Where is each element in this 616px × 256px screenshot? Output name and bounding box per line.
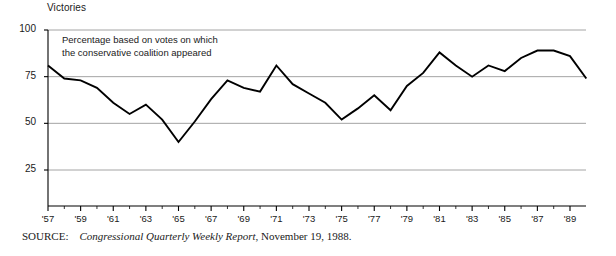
- x-axis-tick-label: '81: [428, 213, 452, 224]
- chart-annotation: Percentage based on votes on which the c…: [62, 34, 218, 59]
- x-axis-tick-label: '63: [134, 213, 158, 224]
- x-axis-tick-label: '87: [525, 213, 549, 224]
- y-axis-tick-label: 25: [6, 163, 36, 174]
- x-axis-ticks: [48, 206, 570, 211]
- x-axis-tick-label: '77: [362, 213, 386, 224]
- source-note: SOURCE: Congressional Quarterly Weekly R…: [22, 230, 351, 242]
- x-axis-tick-label: '69: [232, 213, 256, 224]
- x-axis-tick-label: '75: [330, 213, 354, 224]
- source-publication: Congressional Quarterly Weekly Report: [79, 230, 255, 242]
- source-date: , November 19, 1988.: [256, 230, 352, 242]
- y-axis-ticks: [44, 30, 48, 170]
- x-axis-tick-label: '67: [199, 213, 223, 224]
- x-axis-tick-label: '79: [395, 213, 419, 224]
- x-axis-tick-label: '83: [460, 213, 484, 224]
- y-axis-title: Victories: [47, 2, 86, 13]
- x-axis-tick-label: '73: [297, 213, 321, 224]
- x-axis-tick-label: '89: [558, 213, 582, 224]
- x-axis-tick-label: '71: [264, 213, 288, 224]
- source-label: SOURCE:: [22, 230, 68, 242]
- chart-figure: Victories Percentage based on votes on w…: [0, 0, 616, 256]
- x-axis-tick-label: '57: [36, 213, 60, 224]
- x-axis-tick-label: '61: [101, 213, 125, 224]
- data-line-conservative-coalition-victories: [48, 51, 586, 142]
- y-axis-tick-label: 100: [6, 23, 36, 34]
- x-axis-tick-label: '85: [493, 213, 517, 224]
- y-axis-tick-label: 50: [6, 116, 36, 127]
- y-axis-tick-label: 75: [6, 70, 36, 81]
- x-axis-tick-label: '59: [69, 213, 93, 224]
- x-axis-tick-label: '65: [167, 213, 191, 224]
